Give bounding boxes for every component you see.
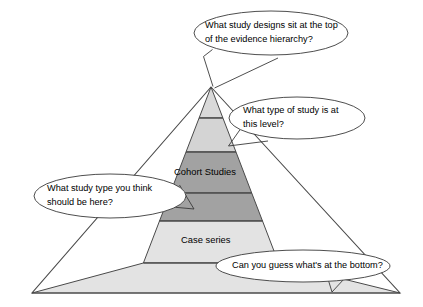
callout-second-level[interactable]: What type of study is at this level? bbox=[229, 97, 366, 146]
callout-second-level-bubble bbox=[229, 97, 365, 139]
callout-second-level-line-1: What type of study is at bbox=[243, 105, 339, 115]
callout-top-tail bbox=[204, 50, 214, 87]
callout-top-line-2: of the evidence hierarchy? bbox=[205, 34, 313, 44]
pyramid-tier-1 bbox=[199, 87, 223, 118]
callout-left-bubble bbox=[34, 174, 186, 218]
tier-label-cohort-studies: Cohort Studies bbox=[174, 166, 236, 177]
callout-left-line-1: What study type you think bbox=[47, 183, 153, 193]
callout-top-line-1: What study designs sit at the top bbox=[205, 20, 338, 30]
callout-second-level-line-2: this level? bbox=[243, 119, 284, 129]
evidence-pyramid-figure: Cohort Studies Case series What study de… bbox=[0, 0, 423, 307]
callout-top-bubble bbox=[194, 11, 348, 55]
callout-apex-pointer-line bbox=[215, 58, 279, 88]
tier-label-case-series: Case series bbox=[181, 234, 231, 245]
pyramid-tier-2 bbox=[186, 118, 236, 152]
callout-bottom-line-1: Can you guess what's at the bottom? bbox=[232, 260, 383, 270]
diagram-canvas: Cohort Studies Case series What study de… bbox=[0, 0, 423, 307]
callout-left-line-2: should be here? bbox=[47, 197, 113, 207]
callout-top[interactable]: What study designs sit at the top of the… bbox=[194, 11, 348, 87]
